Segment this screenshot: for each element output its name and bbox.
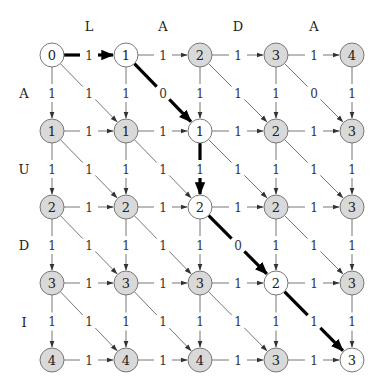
vertical-weight: 1: [196, 163, 204, 177]
diagonal-weight: 0: [234, 239, 242, 253]
grid-node: 2: [264, 119, 288, 143]
diagonal-edge: [284, 215, 307, 238]
path-diagonal-edge: [208, 215, 231, 238]
horizontal-weight: 1: [85, 277, 93, 291]
grid-node: 2: [188, 43, 212, 67]
horizontal-weight: 1: [159, 125, 167, 139]
diagonal-weight: 1: [310, 315, 318, 329]
diagonal-edge: [134, 140, 156, 163]
grid-node: 4: [188, 348, 212, 372]
diagonal-edge: [284, 63, 307, 86]
vertical-weight: 1: [48, 315, 56, 329]
vertical-weight: 1: [122, 315, 130, 329]
row-letter: D: [19, 238, 29, 253]
horizontal-weight: 1: [234, 49, 242, 63]
node-value: 2: [122, 200, 130, 215]
vertical-weight: 1: [122, 163, 130, 177]
vertical-weight: 1: [348, 163, 356, 177]
diagonal-weight: 0: [159, 87, 167, 101]
diagonal-edge-arrow-icon: [244, 175, 266, 197]
diagonal-edge-arrow-icon: [169, 175, 191, 197]
horizontal-weight: 1: [310, 277, 318, 291]
grid-node: 2: [264, 271, 288, 295]
diagonal-weight: 1: [159, 239, 167, 253]
node-value: 0: [48, 48, 56, 63]
path-diagonal-edge-arrow-icon: [244, 251, 266, 273]
horizontal-weight: 1: [159, 277, 167, 291]
diagonal-edge-arrow-icon: [320, 99, 342, 121]
vertical-weight: 1: [348, 87, 356, 101]
path-diagonal-edge: [134, 64, 156, 87]
diagonal-edge-arrow-icon: [320, 175, 342, 197]
grid-node: 0: [40, 43, 64, 67]
column-letter: L: [85, 19, 94, 34]
grid-node: 3: [264, 43, 288, 67]
node-value: 2: [196, 200, 204, 215]
diagonal-weight: 1: [234, 315, 242, 329]
diagonal-edge: [60, 216, 82, 239]
horizontal-weight: 1: [310, 49, 318, 63]
grid-node: 4: [114, 348, 138, 372]
diagonal-edge-arrow-icon: [320, 251, 342, 273]
diagonal-edge: [208, 292, 231, 316]
grid-node: 2: [114, 195, 138, 219]
diagonal-weight: 1: [310, 239, 318, 253]
grid-node: 3: [340, 195, 364, 219]
horizontal-weight: 1: [159, 354, 167, 368]
node-value: 3: [348, 200, 356, 215]
vertical-weight: 1: [48, 87, 56, 101]
horizontal-weight: 1: [234, 201, 242, 215]
path-diagonal-edge: [284, 292, 307, 316]
horizontal-weight: 1: [310, 201, 318, 215]
horizontal-weight: 1: [234, 277, 242, 291]
diagonal-edge-arrow-icon: [95, 251, 117, 273]
grid-node: 1: [40, 119, 64, 143]
grid-node: 4: [40, 348, 64, 372]
diagonal-edge: [60, 140, 82, 163]
node-value: 2: [48, 200, 56, 215]
grid-node: 1: [114, 43, 138, 67]
dp-grid-diagram: 1111101111101111111111111111111111011111…: [0, 0, 384, 389]
horizontal-weight: 1: [85, 125, 93, 139]
horizontal-weight: 1: [159, 201, 167, 215]
vertical-weight: 1: [272, 239, 280, 253]
diagonal-weight: 1: [159, 163, 167, 177]
vertical-weight: 1: [272, 315, 280, 329]
diagonal-edge-arrow-icon: [169, 251, 191, 273]
horizontal-weight: 1: [234, 354, 242, 368]
node-value: 1: [122, 124, 130, 139]
diagonal-edge-arrow-icon: [244, 99, 266, 121]
grid-node: 2: [188, 195, 212, 219]
diagonal-edge-arrow-icon: [95, 99, 117, 121]
grid-node: 4: [340, 43, 364, 67]
column-letter: A: [157, 19, 168, 34]
grid-node: 3: [40, 271, 64, 295]
vertical-weight: 1: [196, 239, 204, 253]
diagonal-weight: 1: [85, 315, 93, 329]
grid-node: 3: [340, 348, 364, 372]
node-value: 4: [348, 48, 356, 63]
vertical-weight: 1: [272, 163, 280, 177]
horizontal-weight: 1: [310, 354, 318, 368]
grid-node: 3: [188, 271, 212, 295]
node-value: 2: [272, 276, 280, 291]
diagram-svg: 1111101111101111111111111111111111011111…: [0, 0, 384, 389]
vertical-weight: 1: [196, 315, 204, 329]
row-letter: U: [19, 162, 30, 177]
node-value: 1: [196, 124, 204, 139]
diagonal-edge: [60, 292, 82, 315]
diagonal-weight: 1: [85, 87, 93, 101]
diagonal-edge-arrow-icon: [95, 175, 117, 197]
grid-node: 3: [340, 271, 364, 295]
node-value: 2: [272, 124, 280, 139]
diagonal-edge-arrow-icon: [244, 328, 267, 351]
diagonal-edge-arrow-icon: [169, 328, 191, 351]
diagonal-weight: 1: [85, 163, 93, 177]
diagonal-edge: [60, 64, 82, 87]
horizontal-weight: 1: [85, 49, 93, 63]
diagonal-edge-arrow-icon: [95, 328, 117, 351]
diagonal-weight: 1: [234, 163, 242, 177]
node-value: 3: [348, 124, 356, 139]
horizontal-weight: 1: [310, 125, 318, 139]
column-letter: A: [308, 19, 319, 34]
